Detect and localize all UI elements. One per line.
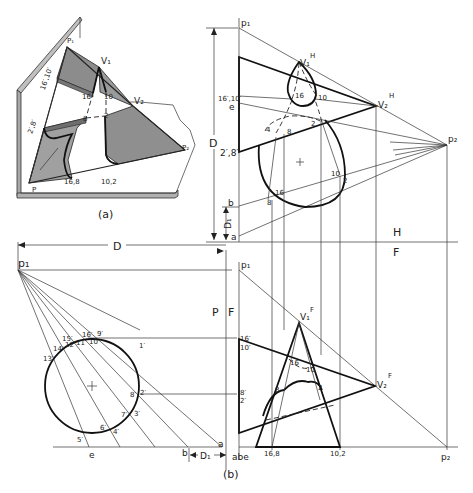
vertical-plane-side-edge: [17, 90, 21, 196]
fold-label-H: H: [393, 226, 401, 239]
label-a-left: a: [218, 439, 224, 449]
label-4-top: 4: [266, 126, 271, 134]
label-V2F-sup: F: [388, 372, 392, 380]
label-8p-front: 8′: [240, 389, 246, 397]
label-P1: P₁: [67, 37, 74, 45]
label-2p-front: 2′: [240, 397, 246, 405]
label-V2F: V₂: [377, 380, 387, 390]
label-p2-front: p₂: [441, 452, 451, 462]
label-p1-left: p₁: [18, 257, 29, 270]
dim-D-top: D: [209, 137, 217, 150]
label-e-top: e: [229, 102, 235, 112]
label-e-left: e: [89, 450, 95, 460]
dim-D1-top: D₁: [223, 218, 233, 229]
label-5p: 5′: [77, 436, 83, 444]
label-14p: 14′: [53, 345, 64, 353]
label-16-lower: 16: [275, 189, 284, 197]
floor-plane-edge: [17, 190, 178, 198]
label-V1F: V₁: [300, 312, 310, 322]
label-V2: V₂: [134, 96, 144, 106]
label-2: 2: [104, 112, 108, 120]
label-11p: 11′: [76, 339, 87, 347]
label-4p: 4′: [113, 428, 119, 436]
label-V2H-sup: H: [389, 92, 394, 100]
cone-base-outline: [259, 120, 345, 207]
caption-b: (b): [223, 468, 239, 481]
label-10-front: 10: [306, 366, 315, 374]
caption-a: (a): [98, 208, 113, 221]
label-6p: 6′: [100, 424, 106, 432]
label-p2-top: p₂: [448, 134, 458, 144]
label-V2H: V₂: [378, 100, 388, 110]
label-2-front: 2: [318, 384, 322, 392]
intersection-diagram: P₁ V₁ V₂ 16′,10′ 2′,8′ 16 10 8 2 16,8 10…: [0, 0, 473, 493]
label-10p-front: 10′: [240, 344, 251, 352]
pictorial-view-a: P₁ V₁ V₂ 16′,10′ 2′,8′ 16 10 8 2 16,8 10…: [17, 17, 195, 221]
label-F: F: [228, 306, 234, 319]
dim-D-left: D: [113, 240, 121, 253]
dim-D1-left: D₁: [200, 451, 211, 461]
label-10-2-front: 10,2: [330, 450, 346, 458]
label-16-upper: 16: [295, 92, 304, 100]
label-10: 10: [104, 93, 113, 101]
label-16p: 16′: [82, 331, 93, 339]
label-10-upper: 10: [318, 94, 327, 102]
label-P: P: [212, 306, 219, 319]
label-3p: 3′: [134, 410, 140, 418]
label-a-top: a: [231, 232, 237, 242]
label-abe-front: abe: [232, 452, 249, 462]
label-2p8p-top: 2′,8′: [220, 148, 238, 158]
label-10-2: 10,2: [101, 178, 117, 186]
label-2-top: 2: [311, 120, 315, 128]
label-2p: 2′: [140, 389, 146, 397]
label-16-front: 16: [290, 359, 299, 367]
top-view: H F D D₁: [206, 18, 458, 450]
label-2p8p: 2′,8′: [26, 118, 39, 135]
label-p1-top: p₁: [241, 18, 251, 28]
label-16-8-front: 16,8: [264, 450, 280, 458]
label-b-left: b: [182, 448, 188, 458]
label-15p: 15′: [62, 335, 73, 343]
cone-front-outline: [256, 323, 340, 447]
label-1p: 1′: [139, 342, 145, 350]
label-V1H: V₁: [300, 58, 310, 68]
label-V1F-sup: F: [310, 306, 314, 314]
label-13p: 13′: [43, 355, 54, 363]
label-b-top: b: [228, 198, 234, 208]
label-10-lower: 10: [331, 170, 340, 178]
auxiliary-view: D D₁ p₁ P F a b e 1′ 2′ 3′: [18, 238, 237, 470]
label-8-front: 8: [275, 386, 279, 394]
label-2-lower: 2: [343, 177, 347, 185]
label-8-lower: 8: [267, 199, 271, 207]
label-7p: 7′: [121, 411, 127, 419]
label-8-top: 8: [287, 128, 291, 136]
label-16-8: 16,8: [64, 178, 80, 186]
label-9p: 9′: [97, 330, 103, 338]
label-8p: 8′: [130, 391, 136, 399]
label-P2: P₂: [182, 144, 189, 152]
front-view: p₁ V₁ F V₂ F p₂ 16′ 10′ 8′ 2′ abe 16,8 1…: [223, 260, 458, 481]
label-V1H-sup: H: [310, 52, 315, 60]
label-p1-front: p₁: [241, 260, 251, 270]
fold-label-F: F: [393, 246, 399, 259]
label-8: 8: [83, 115, 87, 123]
label-V1: V₁: [101, 56, 111, 66]
label-P: P: [32, 186, 36, 194]
label-16: 16: [82, 93, 91, 101]
label-10p: 10′: [89, 338, 100, 346]
label-16p-front: 16′: [240, 335, 251, 343]
label-16p10p: 16′,10′: [39, 66, 55, 91]
